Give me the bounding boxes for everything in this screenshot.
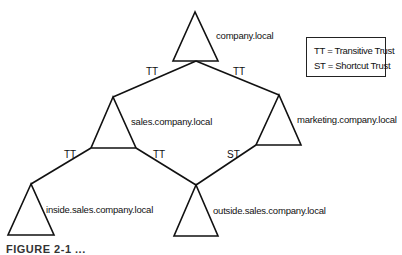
domain-label-marketing: marketing.company.local <box>297 115 397 125</box>
legend-item-shortcut: ST = Shortcut Trust <box>314 58 385 73</box>
domain-label-company: company.local <box>216 31 273 41</box>
figure-caption: FIGURE 2-1 ... <box>6 243 86 255</box>
edge-label-company-sales: TT <box>146 67 158 77</box>
domain-label-outside: outside.sales.company.local <box>213 206 326 216</box>
domain-triangle-outside <box>174 185 218 236</box>
domain-triangle-company <box>173 12 218 61</box>
legend-item-transitive: TT = Transitive Trust <box>314 43 385 58</box>
edge-sales-outside <box>136 148 196 185</box>
edge-label-sales-inside: TT <box>64 150 76 160</box>
edge-marketing-outside <box>196 145 256 185</box>
domain-triangle-sales <box>91 97 136 148</box>
domain-label-inside: inside.sales.company.local <box>46 205 153 215</box>
edge-label-company-marketing: TT <box>233 67 245 77</box>
legend-box: TT = Transitive Trust ST = Shortcut Trus… <box>306 37 386 77</box>
domain-label-sales: sales.company.local <box>131 117 212 127</box>
edge-sales-inside <box>31 148 91 184</box>
domain-triangle-marketing <box>256 95 301 145</box>
edge-label-sales-outside: TT <box>153 150 165 160</box>
edge-label-marketing-outside: ST <box>227 150 240 160</box>
